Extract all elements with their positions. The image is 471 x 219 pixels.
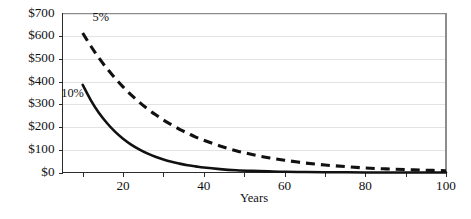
- y-tick-label: $300: [28, 95, 55, 110]
- chart-container: $0$100$200$300$400$500$600$700 204060801…: [0, 0, 471, 219]
- y-axis-tick-labels: $0$100$200$300$400$500$600$700: [28, 5, 55, 179]
- y-tick-label: $400: [28, 73, 55, 88]
- x-tick-label: 60: [278, 178, 292, 193]
- y-tick-label: $500: [28, 50, 55, 65]
- x-axis-tick-labels: 20406080100: [116, 178, 456, 193]
- x-tick-label: 80: [359, 178, 373, 193]
- y-tick-label: $100: [28, 141, 55, 156]
- y-tick-label: $200: [28, 118, 55, 133]
- y-tick-label: $700: [28, 5, 55, 20]
- x-axis-title: Years: [240, 191, 268, 205]
- y-tick-label: $600: [28, 27, 55, 42]
- y-tick-label: $0: [41, 164, 55, 179]
- x-tick-label: 20: [116, 178, 130, 193]
- discount-curves-chart: $0$100$200$300$400$500$600$700 204060801…: [0, 0, 471, 219]
- series-annotation-10-percent: 10%: [61, 86, 84, 100]
- series-annotation-5-percent: 5%: [93, 10, 110, 24]
- x-tick-label: 100: [436, 178, 456, 193]
- x-tick-label: 40: [197, 178, 211, 193]
